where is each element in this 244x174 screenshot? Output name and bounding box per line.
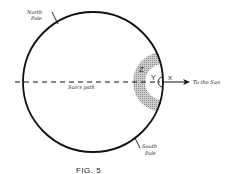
- south-pole-label-1: South: [142, 143, 157, 149]
- label-x: X: [168, 75, 172, 81]
- label-y: Y: [151, 74, 156, 81]
- earth-diagram: North Pole South Pole Sun's path To the …: [0, 0, 244, 174]
- to-the-sun-label: To the Sun: [193, 79, 220, 85]
- suns-path-label: Sun's path: [68, 84, 95, 91]
- south-pole-leader: [135, 138, 140, 148]
- south-pole-label-2: Pole: [144, 150, 156, 156]
- north-pole-label-2: Pole: [30, 15, 42, 21]
- figure-caption: FIG. 5: [76, 166, 101, 174]
- label-z: Z: [139, 65, 144, 74]
